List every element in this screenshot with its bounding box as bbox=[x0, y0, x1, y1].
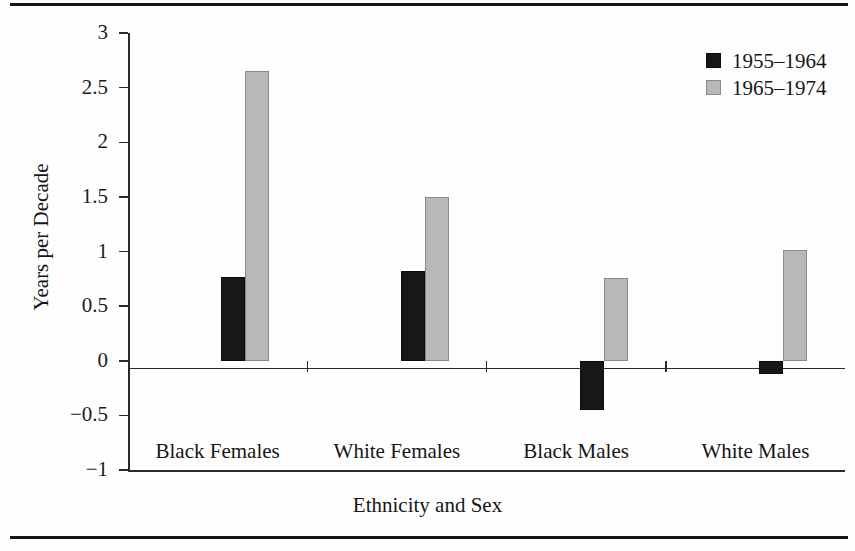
y-axis-tick bbox=[119, 469, 128, 471]
bar bbox=[580, 361, 604, 410]
gray-square-icon bbox=[706, 80, 721, 95]
y-axis-tick bbox=[119, 305, 128, 307]
y-axis-line bbox=[128, 33, 130, 471]
y-axis-tick bbox=[119, 32, 128, 34]
bar bbox=[221, 277, 245, 361]
category-label: Black Males bbox=[487, 440, 666, 462]
y-axis-tick-label: 0 bbox=[20, 350, 108, 371]
bar bbox=[759, 361, 783, 374]
y-axis-tick bbox=[119, 196, 128, 198]
bar bbox=[783, 250, 807, 360]
legend-label: 1965–1974 bbox=[732, 75, 827, 101]
top-rule bbox=[10, 3, 848, 6]
legend: 1955–19641965–1974 bbox=[706, 48, 855, 102]
y-axis-tick-label: 3 bbox=[20, 22, 108, 43]
y-axis-tick bbox=[119, 87, 128, 89]
x-axis-tick bbox=[307, 361, 309, 372]
figure-container: 32.521.510.50−0.5−1 Black FemalesWhite F… bbox=[0, 0, 855, 551]
y-axis-title: Years per Decade bbox=[30, 122, 52, 352]
y-axis-tick-label: 2.5 bbox=[20, 77, 108, 98]
y-axis-tick bbox=[119, 251, 128, 253]
category-label: Black Females bbox=[128, 440, 307, 462]
bar bbox=[604, 278, 628, 361]
y-axis-tick bbox=[119, 360, 128, 362]
legend-label: 1955–1964 bbox=[732, 48, 827, 74]
y-axis-tick bbox=[119, 415, 128, 417]
y-axis-tick-label: −1 bbox=[20, 459, 108, 480]
category-label: White Females bbox=[307, 440, 486, 462]
x-axis-line bbox=[128, 470, 845, 472]
bar bbox=[401, 271, 425, 361]
category-label: White Males bbox=[666, 440, 845, 462]
y-axis-tick-label: −0.5 bbox=[20, 404, 108, 425]
x-axis-tick bbox=[665, 361, 667, 372]
legend-item[interactable]: 1955–1964 bbox=[706, 48, 855, 75]
x-axis-title: Ethnicity and Sex bbox=[0, 494, 855, 516]
bottom-rule bbox=[10, 536, 848, 539]
bar bbox=[245, 71, 269, 361]
y-axis-tick bbox=[119, 142, 128, 144]
black-square-icon bbox=[706, 53, 721, 68]
bar bbox=[425, 197, 449, 361]
x-axis-tick bbox=[486, 361, 488, 372]
legend-item[interactable]: 1965–1974 bbox=[706, 75, 855, 102]
